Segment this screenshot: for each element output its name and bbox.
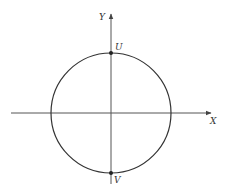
circle-diagram: Y X U V [0,0,230,196]
x-axis-label: X [209,116,217,126]
point-u [109,51,113,55]
point-v [109,171,113,175]
point-u-label: U [115,42,123,52]
point-v-label: V [114,175,122,185]
y-axis-label: Y [99,12,106,22]
